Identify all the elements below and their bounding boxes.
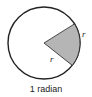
caption: 1 radian bbox=[0, 84, 92, 94]
radian-diagram: r r bbox=[0, 0, 92, 97]
arc-length-label: r bbox=[82, 29, 86, 39]
radius-label: r bbox=[50, 54, 54, 64]
